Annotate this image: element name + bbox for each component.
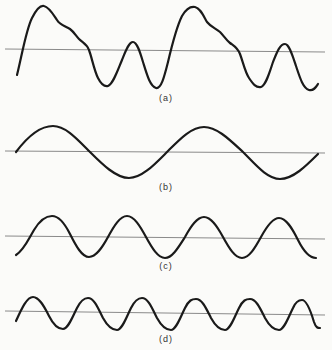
waveform-figure [0, 0, 332, 350]
panel-c-label: (c) [159, 261, 173, 271]
panel-a-complex-wave [17, 6, 318, 90]
panel-b-label: (b) [159, 182, 173, 192]
panel-a [5, 6, 325, 90]
panel-a-label: (a) [159, 93, 173, 103]
panel-b [5, 126, 325, 179]
panel-c [5, 216, 325, 258]
panel-d-label: (d) [159, 334, 173, 344]
panel-c-axis [5, 236, 325, 239]
panel-d-axis [5, 311, 325, 315]
panel-d [5, 297, 325, 330]
